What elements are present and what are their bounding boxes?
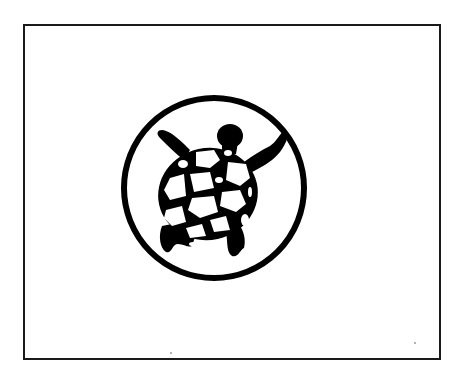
scan-speck: [170, 352, 172, 354]
scan-speck: [414, 342, 416, 344]
turtle-emblem: [0, 0, 471, 370]
